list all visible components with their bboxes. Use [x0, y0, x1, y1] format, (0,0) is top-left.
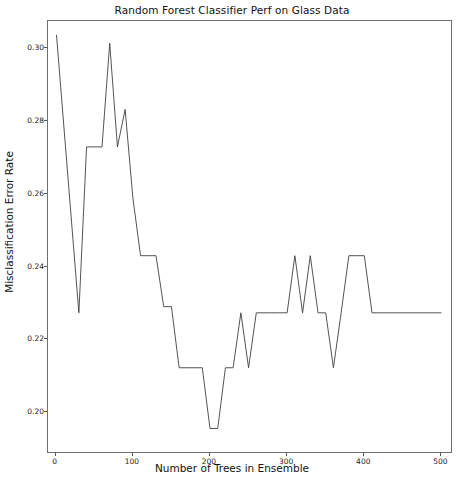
y-tick-label: 0.30	[10, 43, 44, 52]
x-axis-label: Number of Trees in Ensemble	[0, 462, 464, 474]
plot-area	[47, 20, 452, 453]
x-tick-mark	[55, 453, 56, 456]
y-axis-label: Misclassification Error Rate	[3, 2, 15, 442]
x-tick-mark	[286, 453, 287, 456]
chart-title: Random Forest Classifier Perf on Glass D…	[0, 4, 464, 16]
figure: Random Forest Classifier Perf on Glass D…	[0, 0, 464, 482]
x-tick-mark	[440, 453, 441, 456]
y-tick-label: 0.22	[10, 334, 44, 343]
x-tick-mark	[209, 453, 210, 456]
y-tick-label: 0.28	[10, 116, 44, 125]
y-tick-label: 0.24	[10, 261, 44, 270]
y-tick-label: 0.20	[10, 407, 44, 416]
data-line-chart	[48, 21, 453, 454]
x-tick-mark	[132, 453, 133, 456]
x-tick-mark	[363, 453, 364, 456]
series-line-misclassification-error-rate	[56, 35, 441, 429]
y-tick-label: 0.26	[10, 188, 44, 197]
